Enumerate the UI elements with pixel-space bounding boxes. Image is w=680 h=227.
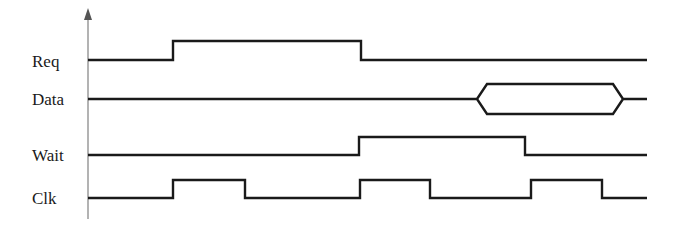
waveform-req: [88, 41, 647, 60]
signal-label-req: Req: [32, 52, 60, 71]
waveform-data: [88, 84, 647, 114]
time-axis: [84, 8, 92, 219]
signal-label-data: Data: [32, 90, 65, 109]
waveform-wait: [88, 137, 647, 155]
arrow-up-icon: [84, 8, 92, 20]
timing-diagram: Req Data Wait Clk: [0, 0, 680, 227]
signal-label-clk: Clk: [32, 189, 57, 208]
signal-label-wait: Wait: [32, 146, 64, 165]
signal-labels: Req Data Wait Clk: [32, 52, 65, 208]
waveform-clk: [88, 180, 647, 198]
signal-waveforms: [88, 41, 647, 198]
